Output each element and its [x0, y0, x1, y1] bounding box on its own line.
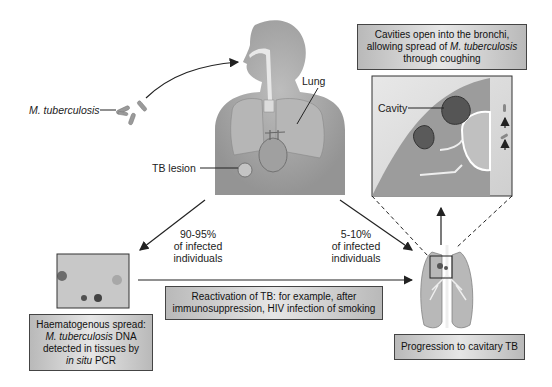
reactivation-box: Reactivation of TB: for example, after i… [165, 286, 383, 320]
lung-label: Lung [302, 75, 325, 87]
haem-line1: Haematogenous spread: [30, 319, 152, 331]
progression-text: Progression to cavitary TB [395, 341, 524, 353]
cavities-info-box: Cavities open into the bronchi, allowing… [357, 24, 527, 70]
latent-pct-value: 90-95% [168, 228, 228, 240]
active-pct-value: 5-10% [326, 228, 386, 240]
latent-percentage-label: 90-95% of infected individuals [168, 228, 228, 264]
tissue-micrograph [57, 254, 129, 308]
haem-dna: DNA [113, 331, 137, 342]
latent-pct-line2: of infected [168, 240, 228, 252]
haem-line4: in situ PCR [30, 355, 152, 367]
cavity-label: Cavity [378, 102, 407, 114]
tb-lesion-label: TB lesion [152, 162, 196, 174]
haem-species: M. tuberculosis [45, 331, 112, 342]
human-torso-figure [215, 20, 345, 195]
pathogen-label: M. tuberculosis [29, 104, 100, 116]
haematogenous-spread-box: Haematogenous spread: M. tuberculosis DN… [29, 314, 153, 371]
latent-pct-line3: individuals [168, 252, 228, 264]
haem-pcr: PCR [92, 355, 116, 366]
cavities-line2-species: M. tuberculosis [450, 41, 517, 52]
active-pct-line2: of infected [326, 240, 386, 252]
haem-line2: M. tuberculosis DNA [30, 331, 152, 343]
active-pct-line3: individuals [326, 252, 386, 264]
cavities-line3: through coughing [358, 53, 526, 65]
reactivation-line2: immunosuppression, HIV infection of smok… [166, 303, 382, 315]
inhalation-arrow [146, 62, 238, 98]
cavities-line2: allowing spread of M. tuberculosis [358, 41, 526, 53]
lung-cavity-inset [372, 76, 512, 196]
lungs-figure [421, 245, 473, 328]
haem-insitu: in situ [66, 355, 92, 366]
cavities-line2-text: allowing spread of [367, 41, 450, 52]
progression-box: Progression to cavitary TB [394, 334, 525, 360]
reactivation-line1: Reactivation of TB: for example, after [166, 291, 382, 303]
bacteria-icon [116, 100, 148, 125]
active-percentage-label: 5-10% of infected individuals [326, 228, 386, 264]
cavities-line1: Cavities open into the bronchi, [358, 29, 526, 41]
haem-line3: detected in tissues by [30, 343, 152, 355]
